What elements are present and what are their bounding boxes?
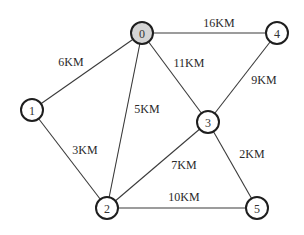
edge-label-1-2: 3KM	[72, 143, 98, 157]
edge-3-5	[208, 122, 257, 208]
node-label: 0	[139, 27, 145, 41]
network-graph-diagram: 6KM5KM16KM11KM9KM3KM7KM2KM10KM 012345	[0, 0, 304, 235]
node-2: 2	[96, 197, 118, 219]
edge-label-0-1: 6KM	[58, 55, 84, 69]
nodes-layer: 012345	[21, 22, 288, 219]
edge-0-1	[32, 33, 142, 110]
node-5: 5	[246, 197, 268, 219]
edge-0-2	[107, 33, 142, 208]
edge-label-0-2: 5KM	[134, 102, 160, 116]
node-label: 2	[104, 202, 110, 216]
node-0: 0	[131, 22, 153, 44]
node-label: 5	[254, 202, 260, 216]
node-label: 3	[205, 116, 211, 130]
edge-label-0-4: 16KM	[203, 16, 235, 30]
edge-labels-layer: 6KM5KM16KM11KM9KM3KM7KM2KM10KM	[58, 16, 277, 204]
graph-canvas: 6KM5KM16KM11KM9KM3KM7KM2KM10KM 012345	[0, 0, 304, 235]
edge-1-2	[32, 110, 107, 208]
node-label: 4	[274, 27, 280, 41]
edge-label-0-3: 11KM	[174, 56, 205, 70]
node-label: 1	[29, 104, 35, 118]
node-1: 1	[21, 99, 43, 121]
edge-label-3-2: 7KM	[171, 158, 197, 172]
node-3: 3	[197, 111, 219, 133]
edge-label-4-3: 9KM	[251, 73, 277, 87]
edge-label-2-5: 10KM	[168, 190, 200, 204]
edge-label-3-5: 2KM	[239, 147, 265, 161]
node-4: 4	[266, 22, 288, 44]
